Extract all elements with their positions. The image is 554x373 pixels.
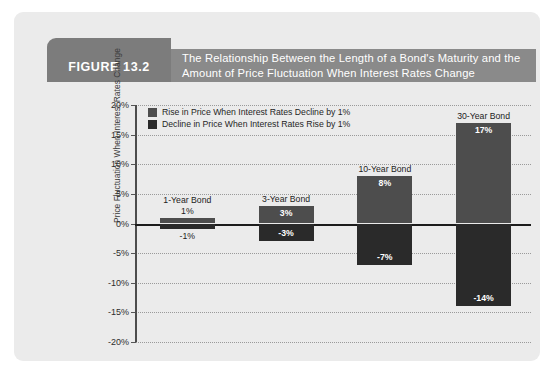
y-axis-tick-label: -20% bbox=[108, 337, 129, 347]
y-axis-tick-label: 0% bbox=[116, 219, 129, 229]
y-axis-title: Price Fluctuation When Interest Rates Ch… bbox=[112, 63, 122, 223]
figure-number-label: FIGURE 13.2 bbox=[68, 60, 150, 74]
bar-group[interactable]: 3-Year Bond3%-3% bbox=[259, 105, 314, 342]
bar-group-label: 30-Year Bond bbox=[457, 111, 510, 121]
bar-value-label-positive: 17% bbox=[475, 125, 492, 135]
bar-value-label-positive: 3% bbox=[280, 208, 293, 218]
bar-value-label-negative: -3% bbox=[278, 228, 293, 238]
chart-legend: Rise in Price When Interest Rates Declin… bbox=[148, 107, 350, 129]
y-axis-tick-label: -10% bbox=[108, 278, 129, 288]
figure-title-line-2: Amount of Price Fluctuation When Interes… bbox=[182, 66, 530, 81]
y-axis-tick-label: 10% bbox=[111, 159, 129, 169]
legend-swatch-icon bbox=[148, 120, 157, 129]
bar-group[interactable]: 1-Year Bond1%-1% bbox=[160, 105, 215, 342]
legend-item-label: Decline in Price When Interest Rates Ris… bbox=[162, 119, 350, 129]
y-axis-tick-label: 5% bbox=[116, 189, 129, 199]
figure-title-line-1: The Relationship Between the Length of a… bbox=[182, 51, 530, 66]
figure-title-band: The Relationship Between the Length of a… bbox=[171, 49, 536, 82]
bar-value-label-positive: 1% bbox=[181, 206, 194, 216]
bar-negative[interactable] bbox=[160, 224, 215, 230]
bar-value-label-negative: -7% bbox=[377, 252, 392, 262]
figure-card: FIGURE 13.2 The Relationship Between the… bbox=[14, 12, 540, 361]
bar-group-label: 1-Year Bond bbox=[163, 195, 211, 205]
legend-item-label: Rise in Price When Interest Rates Declin… bbox=[162, 107, 350, 117]
figure-number-tab: FIGURE 13.2 bbox=[47, 38, 171, 82]
bar-value-label-negative: -14% bbox=[473, 293, 493, 303]
bar-group-label: 10-Year Bond bbox=[358, 164, 411, 174]
y-axis-tick-label: -5% bbox=[113, 248, 129, 258]
legend-item: Decline in Price When Interest Rates Ris… bbox=[148, 119, 350, 129]
y-axis-tick-label: 20% bbox=[111, 100, 129, 110]
bar-group-label: 3-Year Bond bbox=[262, 194, 310, 204]
chart-plot-shell: Price Fluctuation When Interest Rates Ch… bbox=[47, 90, 536, 352]
y-axis-tick bbox=[131, 342, 136, 343]
legend-item: Rise in Price When Interest Rates Declin… bbox=[148, 107, 350, 117]
y-axis-tick-label: 15% bbox=[111, 130, 129, 140]
legend-swatch-icon bbox=[148, 108, 157, 117]
bar-group[interactable]: 10-Year Bond8%-7% bbox=[357, 105, 412, 342]
chart-plot-area: 20%15%10%5%0%-5%-10%-15%-20% 1-Year Bond… bbox=[136, 105, 531, 342]
bar-group[interactable]: 30-Year Bond17%-14% bbox=[456, 105, 511, 342]
bar-value-label-positive: 8% bbox=[379, 178, 392, 188]
bar-positive[interactable] bbox=[456, 123, 511, 224]
y-axis-tick-label: -15% bbox=[108, 307, 129, 317]
gridline bbox=[136, 342, 531, 343]
bar-value-label-negative: -1% bbox=[180, 231, 195, 241]
